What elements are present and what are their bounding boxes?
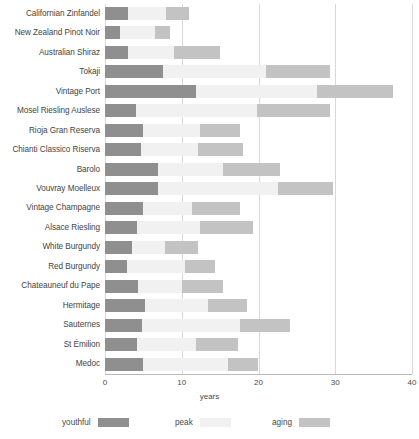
bar-segment-aging xyxy=(228,358,259,371)
category-label: New Zealand Pinot Noir xyxy=(0,28,100,38)
legend: youthfulpeakaging xyxy=(0,415,419,435)
bar-segment-aging xyxy=(257,104,330,117)
category-label: White Burgundy xyxy=(0,242,100,252)
bar-segment-peak xyxy=(143,358,227,371)
bar-segment-youthful xyxy=(105,299,145,312)
wine-aging-chart: Californian ZinfandelNew Zealand Pinot N… xyxy=(0,0,419,439)
bar-segment-youthful xyxy=(105,104,136,117)
bar-row xyxy=(105,316,412,335)
bar-row xyxy=(105,82,412,101)
bar-row xyxy=(105,238,412,257)
category-label: Tokaji xyxy=(0,67,100,77)
bar-segment-peak xyxy=(158,182,278,195)
legend-swatch-peak xyxy=(200,418,231,427)
bar-segment-youthful xyxy=(105,26,120,39)
legend-label: aging xyxy=(272,418,292,427)
bar-segment-peak xyxy=(136,104,257,117)
bar-segment-aging xyxy=(317,85,393,98)
bar-segment-aging xyxy=(240,319,290,332)
bar-segment-peak xyxy=(143,124,200,137)
bar-segment-aging xyxy=(198,143,243,156)
category-label: Sauternes xyxy=(0,320,100,330)
bar-segment-peak xyxy=(143,202,191,215)
category-label: Medoc xyxy=(0,359,100,369)
x-tick-20: 20 xyxy=(254,378,263,387)
bar-row xyxy=(105,121,412,140)
bar-segment-peak xyxy=(120,26,155,39)
bar-segment-youthful xyxy=(105,143,141,156)
bar-segment-youthful xyxy=(105,319,142,332)
plot-area xyxy=(105,4,412,374)
x-tick-0: 0 xyxy=(103,378,107,387)
bar-segment-youthful xyxy=(105,124,143,137)
bar-row xyxy=(105,140,412,159)
bar-segment-youthful xyxy=(105,202,143,215)
bar-segment-aging xyxy=(200,221,253,234)
bar-segment-youthful xyxy=(105,338,137,351)
bar-segment-youthful xyxy=(105,221,137,234)
bar-segment-aging xyxy=(200,124,240,137)
bar-row xyxy=(105,335,412,354)
bar-segment-aging xyxy=(196,338,238,351)
bar-row xyxy=(105,179,412,198)
legend-swatch-aging xyxy=(299,418,330,427)
category-label: St Émilion xyxy=(0,340,100,350)
category-label: Vintage Champagne xyxy=(0,203,100,213)
bar-row xyxy=(105,101,412,120)
bar-segment-youthful xyxy=(105,358,143,371)
bar-segment-peak xyxy=(158,163,223,176)
bar-segment-peak xyxy=(132,241,165,254)
bar-row xyxy=(105,257,412,276)
bar-segment-aging xyxy=(185,260,215,273)
category-label: Mosel Riesling Auslese xyxy=(0,106,100,116)
category-label: Barolo xyxy=(0,165,100,175)
bar-row xyxy=(105,296,412,315)
x-axis-title: years xyxy=(0,392,419,401)
bar-segment-aging xyxy=(174,46,220,59)
bar-segment-youthful xyxy=(105,241,132,254)
category-label: Rioja Gran Reserva xyxy=(0,126,100,136)
category-label: Californian Zinfandel xyxy=(0,9,100,19)
bar-row xyxy=(105,277,412,296)
bar-segment-aging xyxy=(192,202,240,215)
legend-item-aging[interactable]: aging xyxy=(272,415,330,429)
plot-wrapper: Californian ZinfandelNew Zealand Pinot N… xyxy=(0,0,419,378)
bar-segment-aging xyxy=(223,163,280,176)
bar-segment-peak xyxy=(145,299,208,312)
category-label: Australian Shiraz xyxy=(0,48,100,58)
bar-segment-peak xyxy=(127,260,185,273)
x-tick-30: 30 xyxy=(331,378,340,387)
category-label: Vouvray Moelleux xyxy=(0,184,100,194)
bar-segment-youthful xyxy=(105,7,128,20)
category-axis-labels: Californian ZinfandelNew Zealand Pinot N… xyxy=(0,4,100,374)
x-axis-line xyxy=(105,374,412,375)
legend-item-peak[interactable]: peak xyxy=(175,415,231,429)
bar-segment-aging xyxy=(155,26,170,39)
bar-row xyxy=(105,355,412,374)
bar-segment-peak xyxy=(196,85,317,98)
category-label: Red Burgundy xyxy=(0,262,100,272)
bar-segment-youthful xyxy=(105,280,138,293)
legend-swatch-youthful xyxy=(98,418,129,427)
bar-segment-peak xyxy=(141,143,198,156)
x-tick-40: 40 xyxy=(408,378,417,387)
category-label: Vintage Port xyxy=(0,87,100,97)
bar-segment-aging xyxy=(278,182,333,195)
category-label: Chianti Classico Riserva xyxy=(0,145,100,155)
bar-segment-youthful xyxy=(105,46,128,59)
bar-row xyxy=(105,160,412,179)
legend-item-youthful[interactable]: youthful xyxy=(62,415,129,429)
bar-segment-youthful xyxy=(105,163,158,176)
bar-segment-aging xyxy=(182,280,223,293)
bar-row xyxy=(105,4,412,23)
bar-segment-aging xyxy=(266,65,330,78)
bar-segment-youthful xyxy=(105,65,163,78)
bar-segment-aging xyxy=(208,299,247,312)
x-tick-10: 10 xyxy=(177,378,186,387)
bar-segment-youthful xyxy=(105,85,196,98)
bar-row xyxy=(105,218,412,237)
bar-segment-youthful xyxy=(105,182,158,195)
gridline-40 xyxy=(412,4,413,374)
bar-segment-peak xyxy=(142,319,240,332)
bar-row xyxy=(105,23,412,42)
